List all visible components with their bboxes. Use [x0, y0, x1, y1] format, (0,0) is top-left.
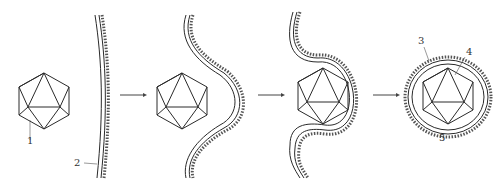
capsid-icon: [423, 68, 473, 124]
arrow-1: [120, 93, 147, 97]
arrow-3: [373, 93, 400, 97]
label-3-envelope: 3: [418, 36, 424, 46]
stage-1: [19, 15, 108, 178]
label-4-matrix: 4: [466, 47, 472, 57]
capsid-icon: [157, 73, 207, 129]
label-1-capsid: 1: [27, 136, 33, 146]
stage-3: [290, 12, 357, 178]
label-2-membrane: 2: [74, 158, 80, 168]
label-5-spikes: 5: [439, 133, 445, 143]
stage-4: [405, 47, 491, 137]
capsid-icon: [298, 68, 348, 124]
arrow-2: [258, 93, 285, 97]
stage-2: [157, 15, 244, 178]
capsid-icon: [19, 73, 69, 129]
